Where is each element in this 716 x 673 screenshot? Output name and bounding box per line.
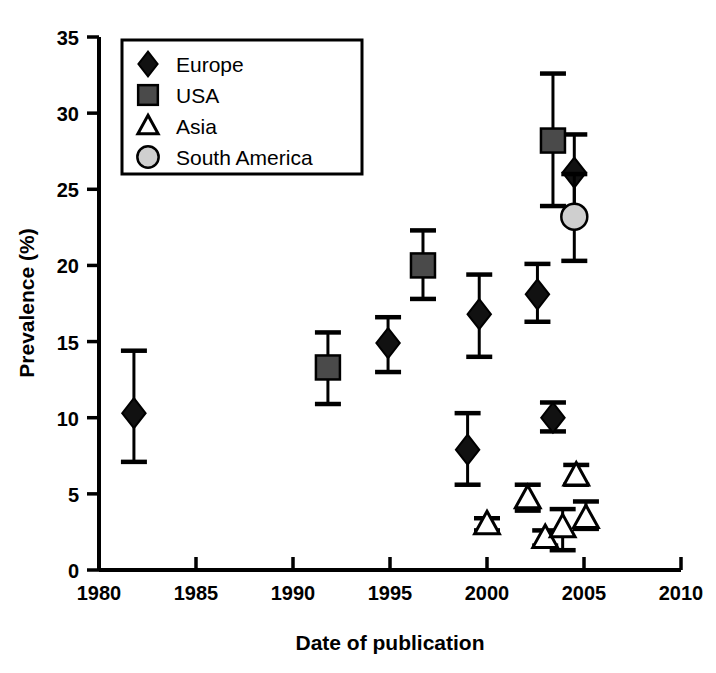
series-south-america bbox=[561, 174, 587, 261]
y-tick-label: 30 bbox=[57, 103, 79, 125]
marker-triangle bbox=[574, 505, 599, 527]
legend-label: Europe bbox=[176, 53, 244, 76]
x-tick-label: 2005 bbox=[562, 582, 607, 604]
x-axis-tick-labels: 1980198519901995200020052010 bbox=[77, 582, 704, 604]
marker-circle bbox=[561, 204, 587, 230]
y-axis-tick-labels: 05101520253035 bbox=[57, 27, 79, 582]
y-tick-label: 25 bbox=[57, 179, 79, 201]
marker-diamond bbox=[468, 299, 491, 329]
legend-label: USA bbox=[176, 84, 219, 107]
x-tick-label: 1990 bbox=[271, 582, 316, 604]
marker-triangle bbox=[515, 485, 540, 507]
legend-marker-circle bbox=[137, 146, 158, 167]
y-tick-label: 35 bbox=[57, 27, 79, 49]
chart-figure: 05101520253035 1980198519901995200020052… bbox=[0, 0, 716, 673]
x-axis-title: Date of publication bbox=[296, 631, 485, 654]
marker-triangle bbox=[550, 514, 575, 536]
marker-square bbox=[316, 355, 340, 379]
chart-legend: EuropeUSAAsiaSouth America bbox=[122, 40, 362, 174]
scatter-plot: 05101520253035 1980198519901995200020052… bbox=[0, 0, 716, 673]
x-tick-label: 1995 bbox=[368, 582, 413, 604]
y-tick-label: 20 bbox=[57, 255, 79, 277]
x-tick-label: 1980 bbox=[77, 582, 122, 604]
y-tick-label: 15 bbox=[57, 332, 79, 354]
marker-diamond bbox=[541, 403, 564, 433]
legend-label: South America bbox=[176, 146, 313, 169]
x-tick-label: 1985 bbox=[174, 582, 219, 604]
marker-diamond bbox=[526, 279, 549, 309]
x-tick-label: 2010 bbox=[659, 582, 704, 604]
marker-triangle bbox=[475, 511, 500, 533]
marker-diamond bbox=[456, 435, 479, 465]
marker-diamond bbox=[376, 328, 399, 358]
y-tick-label: 5 bbox=[68, 484, 79, 506]
y-tick-label: 0 bbox=[68, 560, 79, 582]
series-asia bbox=[474, 463, 599, 551]
series-europe bbox=[121, 134, 587, 484]
legend-marker-square bbox=[138, 85, 158, 105]
marker-square bbox=[411, 253, 435, 277]
marker-square bbox=[541, 129, 565, 153]
y-tick-label: 10 bbox=[57, 408, 79, 430]
marker-diamond bbox=[122, 398, 145, 428]
legend-label: Asia bbox=[176, 115, 217, 138]
x-tick-label: 2000 bbox=[465, 582, 510, 604]
y-axis-title: Prevalence (%) bbox=[15, 228, 38, 377]
